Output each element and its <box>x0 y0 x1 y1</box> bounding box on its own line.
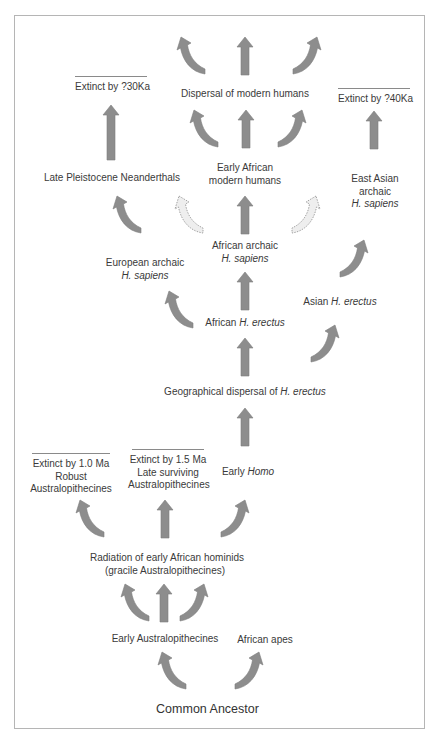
arrow-curve-right <box>278 110 306 147</box>
arrow-curve-left <box>165 291 193 328</box>
label-early-australopithecines: Early Australopithecines <box>110 633 220 646</box>
arrow-up <box>237 408 253 446</box>
label-european-archaic: European archaic H. sapiens <box>95 257 195 282</box>
label-line: modern humans <box>195 175 295 188</box>
label-text: Geographical dispersal of <box>164 386 280 397</box>
label-line: East Asian <box>335 173 415 186</box>
arrow-up <box>237 272 253 310</box>
arrow-curve-right <box>180 584 208 621</box>
arrow-curve-right <box>293 37 321 74</box>
arrow-up <box>156 584 172 622</box>
arrow-curve-right <box>221 500 249 537</box>
label-dispersal-modern-humans: Dispersal of modern humans <box>175 88 315 101</box>
arrow-curve-right-dashed <box>292 196 320 233</box>
arrow-curve-right <box>340 240 368 277</box>
label-neanderthals: Late Pleistocene Neanderthals <box>42 172 182 185</box>
label-line: Radiation of early African hominids <box>90 552 240 565</box>
arrow-curve-left <box>190 110 218 147</box>
label-african-erectus: African H. erectus <box>195 317 295 330</box>
arrow-curve-left <box>121 584 149 621</box>
arrow-curve-left-dashed <box>175 196 203 233</box>
label-line: African archaic <box>190 240 300 253</box>
extinction-rule <box>75 76 147 77</box>
label-late-surviving-australopithecines: Extinct by 1.5 Ma Late surviving Austral… <box>128 454 208 492</box>
label-italic: H. erectus <box>239 317 285 328</box>
arrow-up <box>237 37 253 75</box>
arrow-curve-left <box>113 196 141 233</box>
label-early-homo: Early Homo <box>218 466 278 479</box>
label-line: (gracile Australopithecines) <box>90 565 240 578</box>
label-italic: H. sapiens <box>121 270 168 281</box>
arrow-up <box>237 338 253 376</box>
label-text: African <box>205 317 239 328</box>
label-geographical-dispersal: Geographical dispersal of H. erectus <box>160 386 330 399</box>
label-italic: H. erectus <box>331 296 377 307</box>
label-line: Australopithecines <box>30 483 112 496</box>
arrow-up-tall <box>103 105 119 160</box>
label-line: Extinct by 1.0 Ma <box>30 458 112 471</box>
label-line: Extinct by 1.5 Ma <box>128 454 208 467</box>
label-text: Early <box>222 466 248 477</box>
label-line: European archaic <box>95 257 195 270</box>
label-african-apes: African apes <box>230 634 300 647</box>
label-line: Australopithecines <box>128 479 208 492</box>
label-italic: Homo <box>247 466 274 477</box>
label-line: Late surviving <box>128 467 208 480</box>
label-italic: H. sapiens <box>351 198 398 209</box>
extinction-rule <box>132 449 204 450</box>
arrows-layer <box>0 0 441 745</box>
extinction-rule <box>32 453 110 454</box>
arrow-up <box>238 110 254 148</box>
arrow-curve-left <box>158 652 186 689</box>
extinction-rule <box>338 88 410 89</box>
arrow-up <box>366 111 382 149</box>
label-common-ancestor: Common Ancestor <box>150 702 265 717</box>
arrow-curve-right <box>311 325 339 362</box>
label-east-asian-archaic: East Asian archaic H. sapiens <box>335 173 415 211</box>
label-radiation: Radiation of early African hominids (gra… <box>90 552 240 577</box>
label-italic: H. erectus <box>280 386 326 397</box>
label-text: Asian <box>303 296 331 307</box>
label-line: Robust <box>30 471 112 484</box>
label-east-asian-extinct: Extinct by ?40Ka <box>338 93 410 106</box>
arrow-curve-left <box>177 37 205 74</box>
label-asian-erectus: Asian H. erectus <box>300 296 380 309</box>
label-robust-australopithecines: Extinct by 1.0 Ma Robust Australopitheci… <box>30 458 112 496</box>
label-african-archaic: African archaic H. sapiens <box>190 240 300 265</box>
arrow-curve-left <box>76 500 104 537</box>
label-early-african-modern-humans: Early African modern humans <box>195 162 295 187</box>
label-neanderthal-extinct: Extinct by ?30Ka <box>75 81 147 94</box>
arrow-up <box>157 500 173 538</box>
label-italic: H. sapiens <box>221 253 268 264</box>
arrow-up <box>237 196 253 234</box>
label-line: archaic <box>335 186 415 199</box>
label-line: Early African <box>195 162 295 175</box>
arrow-curve-right <box>235 652 263 689</box>
